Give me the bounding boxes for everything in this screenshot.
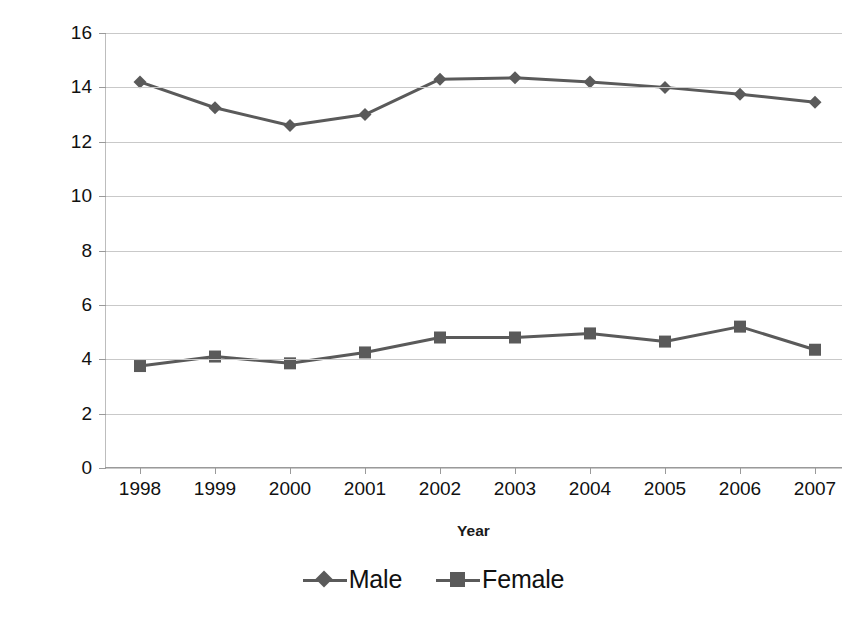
data-point-marker-female xyxy=(659,336,671,348)
x-axis-tick-label: 1999 xyxy=(194,478,236,500)
series-line-male xyxy=(140,78,815,126)
data-point-marker-male xyxy=(284,119,297,132)
x-axis-tick-mark xyxy=(740,467,741,474)
data-point-marker-female xyxy=(359,346,371,358)
chart-legend: MaleFemale xyxy=(0,565,867,594)
data-point-marker-male xyxy=(734,88,747,101)
legend-square-icon xyxy=(450,572,465,587)
data-point-marker-male xyxy=(434,73,447,86)
gridline xyxy=(105,359,842,360)
x-axis-tick-label: 2004 xyxy=(569,478,611,500)
x-axis-tick-labels: 1998199920002001200220032004200520062007 xyxy=(105,478,842,506)
x-axis-tick-label: 2006 xyxy=(719,478,761,500)
x-axis-tick-mark xyxy=(365,467,366,474)
y-axis-tick-label: 8 xyxy=(40,240,102,262)
y-axis-tick-label: 14 xyxy=(40,76,102,98)
gridline xyxy=(105,414,842,415)
y-axis-tick-labels: 1614121086420 xyxy=(40,0,102,618)
y-axis-tick-mark xyxy=(99,468,106,469)
data-point-marker-male xyxy=(809,96,822,109)
gridline xyxy=(105,196,842,197)
y-axis-tick-mark xyxy=(99,414,106,415)
data-point-marker-male xyxy=(509,71,522,84)
data-point-marker-female xyxy=(209,351,221,363)
x-axis-tick-mark xyxy=(215,467,216,474)
y-axis-tick-label: 4 xyxy=(40,348,102,370)
hiv-test-rate-line-chart: Positive HIV Test Rate/100,000 (adults) … xyxy=(0,0,867,618)
y-axis-tick-label: 2 xyxy=(40,403,102,425)
gridline xyxy=(105,87,842,88)
data-point-marker-female xyxy=(509,332,521,344)
legend-diamond-icon xyxy=(315,570,332,587)
y-axis-tick-label: 16 xyxy=(40,22,102,44)
x-axis-tick-label: 2001 xyxy=(344,478,386,500)
legend-label: Male xyxy=(349,565,402,594)
x-axis-tick-mark xyxy=(290,467,291,474)
legend-entry-female[interactable]: Female xyxy=(436,565,564,594)
x-axis-tick-label: 2002 xyxy=(419,478,461,500)
y-axis-tick-label: 0 xyxy=(40,457,102,479)
x-axis-tick-mark xyxy=(515,467,516,474)
legend-swatch-female xyxy=(436,569,480,591)
x-axis-tick-mark xyxy=(440,467,441,474)
plot-area xyxy=(105,33,842,468)
x-axis-tick-label: 2005 xyxy=(644,478,686,500)
legend-label: Female xyxy=(482,565,564,594)
data-point-marker-male xyxy=(359,108,372,121)
x-axis-tick-label: 1998 xyxy=(119,478,161,500)
gridline xyxy=(105,305,842,306)
gridline xyxy=(105,142,842,143)
gridline xyxy=(105,251,842,252)
data-point-marker-female xyxy=(134,360,146,372)
y-axis-tick-mark xyxy=(99,251,106,252)
y-axis-tick-mark xyxy=(99,142,106,143)
data-point-marker-female xyxy=(434,332,446,344)
data-point-marker-male xyxy=(209,101,222,114)
y-axis-tick-label: 6 xyxy=(40,294,102,316)
x-axis-tick-mark xyxy=(815,467,816,474)
y-axis-tick-mark xyxy=(99,359,106,360)
x-axis-tick-mark xyxy=(665,467,666,474)
x-axis-tick-mark xyxy=(590,467,591,474)
y-axis-tick-mark xyxy=(99,87,106,88)
y-axis-tick-label: 12 xyxy=(40,131,102,153)
x-axis-tick-label: 2000 xyxy=(269,478,311,500)
data-point-marker-female xyxy=(809,344,821,356)
gridline xyxy=(105,33,842,34)
y-axis-tick-mark xyxy=(99,196,106,197)
legend-entry-male[interactable]: Male xyxy=(303,565,402,594)
x-axis-tick-mark xyxy=(140,467,141,474)
x-axis-tick-label: 2007 xyxy=(794,478,836,500)
data-point-marker-female xyxy=(584,327,596,339)
data-point-marker-female xyxy=(734,321,746,333)
x-axis-tick-label: 2003 xyxy=(494,478,536,500)
y-axis-tick-mark xyxy=(99,305,106,306)
x-axis-title: Year xyxy=(105,522,842,540)
y-axis-tick-label: 10 xyxy=(40,185,102,207)
y-axis-tick-mark xyxy=(99,33,106,34)
legend-swatch-male xyxy=(303,569,347,591)
